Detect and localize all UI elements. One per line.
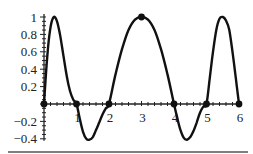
data-point-marker (106, 101, 113, 108)
x-tick-label: 6 (237, 110, 244, 125)
data-point-marker (41, 101, 48, 108)
y-tick-label: −0.2 (13, 114, 37, 129)
y-tick-label: −0.4 (13, 131, 37, 146)
y-tick-label: 0.4 (21, 62, 38, 77)
line-chart: 12345610.80.60.40.2−0.2−0.4 (0, 0, 253, 154)
data-point-marker (203, 101, 210, 108)
x-tick-label: 3 (139, 110, 146, 125)
y-tick-label: 0.8 (21, 27, 37, 42)
y-tick-label: 1 (31, 10, 38, 25)
x-tick-label: 2 (107, 110, 114, 125)
data-point-marker (138, 14, 145, 21)
x-tick-label: 5 (204, 110, 211, 125)
data-point-marker (236, 101, 243, 108)
y-tick-label: 0.2 (21, 79, 37, 94)
data-point-marker (73, 101, 80, 108)
data-point-marker (171, 101, 178, 108)
y-tick-label: 0.6 (21, 44, 38, 59)
